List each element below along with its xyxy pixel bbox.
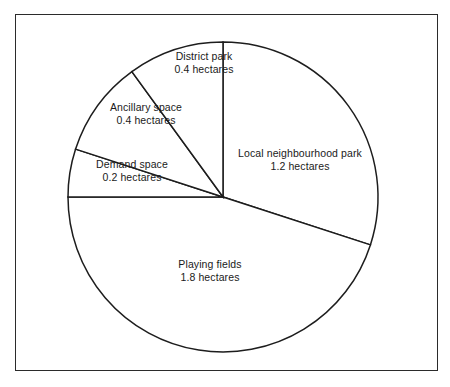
slice-label-demand-space: Demand space 0.2 hectares xyxy=(76,158,188,184)
slice-label-local-neighbourhood-park-name: Local neighbourhood park xyxy=(232,147,368,160)
slice-label-playing-fields-name: Playing fields xyxy=(146,258,274,271)
slice-label-playing-fields: Playing fields 1.8 hectares xyxy=(146,258,274,284)
slice-label-district-park-name: District park xyxy=(152,50,256,63)
figure-caption xyxy=(18,377,438,387)
slice-label-playing-fields-value: 1.8 hectares xyxy=(146,271,274,284)
slice-label-demand-space-value: 0.2 hectares xyxy=(76,171,188,184)
slice-label-local-neighbourhood-park: Local neighbourhood park 1.2 hectares xyxy=(232,147,368,173)
slice-label-district-park-value: 0.4 hectares xyxy=(152,63,256,76)
slice-label-local-neighbourhood-park-value: 1.2 hectares xyxy=(232,160,368,173)
slice-label-ancillary-space-value: 0.4 hectares xyxy=(90,114,202,127)
figure-root: District park 0.4 hectares Ancillary spa… xyxy=(0,0,450,387)
slice-label-demand-space-name: Demand space xyxy=(76,158,188,171)
slice-label-ancillary-space-name: Ancillary space xyxy=(90,101,202,114)
pie-slice-group xyxy=(68,42,378,352)
slice-label-district-park: District park 0.4 hectares xyxy=(152,50,256,76)
slice-label-ancillary-space: Ancillary space 0.4 hectares xyxy=(90,101,202,127)
